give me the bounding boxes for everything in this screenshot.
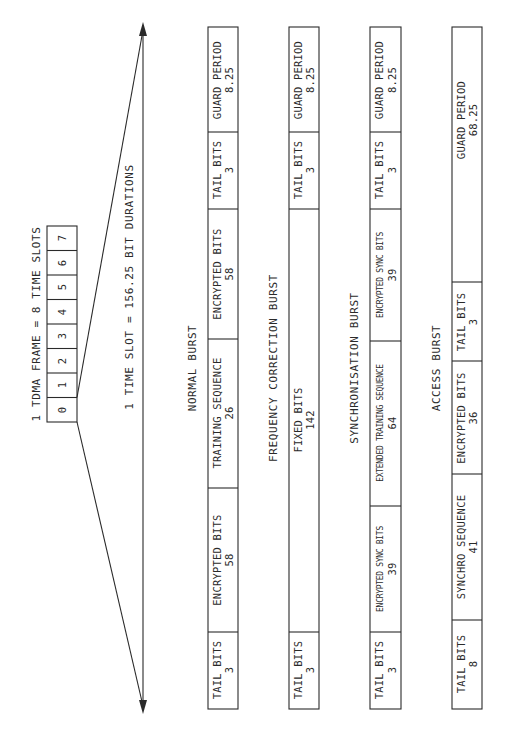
access-field-bits: 3 (467, 319, 479, 326)
tdma-frame-title: 1 TDMA FRAME = 8 TIME SLOTS (30, 226, 43, 421)
normal-field-bits: 8.25 (223, 67, 235, 93)
synchronisation-burst: SYNCHRONISATION BURST TAIL BITS 3 ENCRYP… (348, 27, 401, 709)
fcb-field-bits: 3 (304, 667, 316, 674)
sync-field-bits: 8.25 (386, 67, 398, 93)
sync-field-label: TAIL BITS (373, 141, 385, 200)
gsm-burst-diagram: 1 TDMA FRAME = 8 TIME SLOTS 0 1 2 3 4 5 … (0, 0, 509, 729)
time-slot-label: 1 TIME SLOT = 156.25 BIT DURATIONS (123, 164, 136, 410)
fcb-field-label: TAIL BITS (292, 141, 304, 200)
sync-field-bits: 64 (386, 416, 398, 429)
time-slot-1: 1 (56, 382, 68, 389)
normal-field-label: TAIL BITS (211, 641, 223, 700)
fcb-field-bits: 8.25 (304, 67, 316, 93)
access-field-label: GUARD PERIOD (455, 81, 467, 159)
time-slot-6: 6 (56, 260, 68, 267)
time-slot-2: 2 (56, 358, 68, 365)
sync-field-bits: 3 (386, 667, 398, 674)
normal-field-label: TRAINING SEQUENCE (211, 358, 223, 469)
sync-field-bits: 39 (386, 268, 398, 281)
fcb-field-bits: 142 (304, 410, 316, 430)
time-slot-arrow: 1 TIME SLOT = 156.25 BIT DURATIONS (123, 22, 147, 714)
normal-field-bits: 58 (223, 553, 235, 566)
sync-field-label: ENCRYPTED SYNC BITS (376, 232, 385, 318)
fcb-field-bits: 3 (304, 167, 316, 174)
sync-field-bits: 39 (386, 562, 398, 575)
frequency-correction-burst: FREQUENCY CORRECTION BURST TAIL BITS 3 F… (267, 27, 319, 709)
fcb-field-label: GUARD PERIOD (292, 41, 304, 119)
tdma-frame: 1 TDMA FRAME = 8 TIME SLOTS 0 1 2 3 4 5 … (30, 226, 77, 422)
access-field-bits: 8 (467, 661, 479, 668)
access-field-bits: 36 (467, 411, 479, 424)
time-slot-4: 4 (56, 309, 68, 316)
fcb-field-label: TAIL BITS (292, 641, 304, 700)
sync-field-label: EXTENDED TRAINING SEQUENCE (376, 364, 385, 482)
normal-field-bits: 58 (223, 267, 235, 280)
time-slot-5: 5 (56, 284, 68, 291)
normal-burst-title: NORMAL BURST (186, 325, 199, 412)
sync-burst-title: SYNCHRONISATION BURST (348, 292, 361, 444)
fcb-title: FREQUENCY CORRECTION BURST (267, 274, 280, 462)
normal-field-label: TAIL BITS (211, 141, 223, 200)
normal-field-label: GUARD PERIOD (211, 41, 223, 119)
normal-field-label: ENCRYPTED BITS (211, 514, 223, 605)
arrowhead-down-icon (139, 700, 147, 714)
normal-field-bits: 3 (223, 167, 235, 174)
access-burst-title: ACCESS BURST (430, 325, 443, 412)
time-slot-3: 3 (56, 333, 68, 340)
access-field-bits: 68.25 (467, 104, 479, 137)
normal-burst: NORMAL BURST TAIL BITS 3 ENCRYPTED BITS … (186, 27, 238, 709)
access-field-label: ENCRYPTED BITS (455, 372, 467, 463)
sync-field-bits: 3 (386, 167, 398, 174)
time-slot-7: 7 (56, 235, 68, 242)
access-burst: ACCESS BURST TAIL BITS 8 SYNCHRO SEQUENC… (430, 27, 482, 709)
access-field-label: SYNCHRO SEQUENCE (455, 495, 467, 599)
access-field-bits: 41 (467, 540, 479, 553)
access-field-label: TAIL BITS (455, 635, 467, 694)
access-field-label: TAIL BITS (455, 293, 467, 352)
arrowhead-up-icon (139, 22, 147, 36)
sync-field-label: TAIL BITS (373, 641, 385, 700)
normal-field-bits: 26 (223, 406, 235, 419)
time-slot-0: 0 (56, 407, 68, 414)
sync-field-label: ENCRYPTED SYNC BITS (376, 526, 385, 612)
sync-field-label: GUARD PERIOD (373, 41, 385, 119)
normal-field-label: ENCRYPTED BITS (211, 228, 223, 319)
normal-field-bits: 3 (223, 667, 235, 674)
fcb-field-label: FIXED BITS (292, 387, 304, 452)
